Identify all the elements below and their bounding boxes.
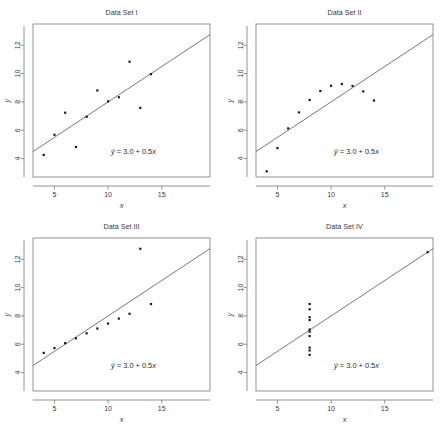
data-point [309,316,311,318]
chart-panel-4: Data Set IV51015x4681012yŷ = 3.0 + 0.5x [223,214,446,428]
data-point [53,347,55,349]
y-tick-label: 6 [14,128,21,132]
data-point [43,154,45,156]
data-point [118,318,120,320]
y-tick-label: 10 [237,70,244,78]
y-tick-label: 4 [14,157,21,161]
x-tick-label: 15 [381,405,389,412]
x-tick-label: 15 [381,191,389,198]
x-tick-label: 15 [158,191,166,198]
y-tick-label: 8 [14,100,21,104]
panel-title: Data Set II [328,8,362,17]
x-tick-label: 5 [53,405,57,412]
regression-line [33,249,210,366]
data-point [53,134,55,136]
data-point [75,146,77,148]
x-tick-label: 10 [104,405,112,412]
data-point [43,352,45,354]
data-point [309,319,311,321]
data-point [139,107,141,109]
regression-line [256,35,433,152]
data-point [96,327,98,329]
regression-line [33,35,210,152]
regression-equation: ŷ = 3.0 + 0.5x [110,361,156,370]
data-point [128,61,130,63]
data-point [139,248,141,250]
data-point [64,342,66,344]
y-tick-label: 12 [237,41,244,49]
y-tick-label: 8 [237,100,244,104]
x-tick-label: 10 [327,191,335,198]
y-tick-label: 6 [14,342,21,346]
data-point [309,335,311,337]
y-axis-label: y [2,311,11,317]
y-tick-label: 12 [14,41,21,49]
data-point [150,73,152,75]
data-point [276,147,278,149]
y-tick-label: 12 [14,255,21,263]
y-axis-label: y [225,311,234,317]
panel-title: Data Set I [106,8,138,17]
y-tick-label: 4 [14,371,21,375]
data-point [64,112,66,114]
y-axis-label: y [2,97,11,103]
x-axis-label: x [119,415,124,424]
x-axis-label: x [342,201,347,210]
data-point [107,322,109,324]
y-tick-label: 4 [237,157,244,161]
data-point [309,349,311,351]
data-point [309,347,311,349]
data-point [362,90,364,92]
x-tick-label: 5 [276,405,280,412]
y-tick-label: 8 [14,314,21,318]
data-point [86,332,88,334]
x-axis-label: x [342,415,347,424]
data-point [75,337,77,339]
data-point [309,303,311,305]
x-axis-label: x [119,201,124,210]
y-tick-label: 8 [237,314,244,318]
data-point [427,251,429,253]
data-point [309,354,311,356]
data-points [43,248,152,354]
data-point [309,99,311,101]
data-point [107,100,109,102]
data-point [309,328,311,330]
panel-title: Data Set III [104,222,140,231]
y-tick-label: 4 [237,371,244,375]
data-point [86,116,88,118]
data-point [298,111,300,113]
data-point [351,85,353,87]
data-point [319,90,321,92]
regression-equation: ŷ = 3.0 + 0.5x [333,361,379,370]
y-tick-label: 10 [14,70,21,78]
data-point [373,99,375,101]
y-tick-label: 12 [237,255,244,263]
x-tick-label: 10 [327,405,335,412]
x-tick-label: 5 [276,191,280,198]
y-tick-label: 6 [237,342,244,346]
x-tick-label: 10 [104,191,112,198]
y-axis-label: y [225,97,234,103]
data-point [118,96,120,98]
data-point [266,170,268,172]
data-point [96,89,98,91]
y-tick-label: 6 [237,128,244,132]
panel-title: Data Set IV [326,222,363,231]
data-point [309,308,311,310]
data-point [309,331,311,333]
data-point [341,83,343,85]
data-point [128,313,130,315]
regression-equation: ŷ = 3.0 + 0.5x [110,147,156,156]
anscombe-quartet-figure: Data Set I51015x4681012yŷ = 3.0 + 0.5xDa… [0,0,446,428]
chart-panel-3: Data Set III51015x4681012yŷ = 3.0 + 0.5x [0,214,223,428]
data-points [43,61,152,156]
data-point [150,303,152,305]
regression-line [256,249,433,366]
data-points [309,251,429,356]
data-point [287,127,289,129]
data-points [266,83,375,172]
y-tick-label: 10 [237,284,244,292]
data-point [330,85,332,87]
x-tick-label: 5 [53,191,57,198]
